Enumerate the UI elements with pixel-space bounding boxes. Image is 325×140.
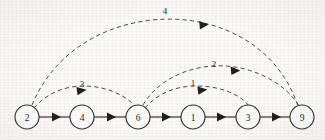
arc-label-2-to-6: 3 xyxy=(80,79,85,89)
edge-3-to-9 xyxy=(260,113,290,122)
arc-6-to-9 xyxy=(143,66,299,106)
node-label: 4 xyxy=(80,113,85,123)
node-1[interactable]: 1 xyxy=(181,105,205,129)
node-4[interactable]: 4 xyxy=(70,105,94,129)
edge-1-to-3 xyxy=(205,113,236,122)
arrow-head-icon xyxy=(217,113,226,122)
edge-6-to-1 xyxy=(150,113,181,122)
arrow-head-icon xyxy=(52,113,61,122)
arc-6-to-3 xyxy=(145,86,249,108)
node-label: 6 xyxy=(136,113,141,123)
node-6[interactable]: 6 xyxy=(126,105,150,129)
edge-2-to-4 xyxy=(39,113,70,122)
arrow-head-icon xyxy=(231,67,241,75)
arrow-head-icon xyxy=(162,113,171,122)
node-label: 9 xyxy=(300,113,305,123)
node-label: 2 xyxy=(25,113,30,123)
node-2[interactable]: 2 xyxy=(15,105,39,129)
graph-figure: 4 3 2 1 2 4 6 1 xyxy=(0,0,325,140)
node-label: 3 xyxy=(246,113,251,123)
graph-canvas: 4 3 2 1 2 4 6 1 xyxy=(0,0,325,140)
arc-label-6-to-9: 2 xyxy=(212,59,217,69)
arrow-head-icon xyxy=(272,113,281,122)
arrow-head-icon xyxy=(199,21,208,30)
arc-label-2-to-9: 4 xyxy=(163,6,168,16)
dashed-arc-group xyxy=(32,19,299,108)
node-9[interactable]: 9 xyxy=(290,105,314,129)
arc-label-group: 4 3 2 1 xyxy=(80,6,217,89)
arrow-head-icon xyxy=(197,86,207,94)
node-3[interactable]: 3 xyxy=(236,105,260,129)
arc-label-6-to-3: 1 xyxy=(191,78,196,88)
node-label: 1 xyxy=(191,113,196,123)
arc-2-to-6 xyxy=(34,86,135,108)
arrow-head-icon xyxy=(107,113,116,122)
arc-path xyxy=(143,66,299,106)
arc-path xyxy=(145,86,249,108)
edge-4-to-6 xyxy=(94,113,126,122)
